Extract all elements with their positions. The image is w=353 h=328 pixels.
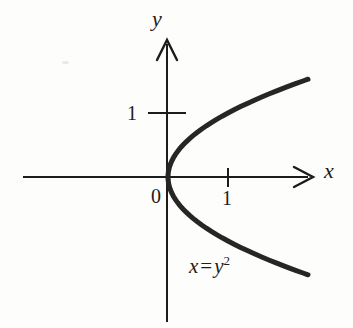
parabola-figure: y x 1 1 0 x=y2 [0,0,353,328]
x-axis-tick-label-1: 1 [222,188,232,208]
equation-equals-sign: = [198,254,214,278]
curve-equation-label: x=y2 [189,256,230,277]
equation-right-variable: y [214,254,223,278]
origin-label: 0 [151,186,161,206]
y-axis-label: y [152,8,162,30]
equation-exponent: 2 [224,253,231,268]
y-axis-tick-label-1: 1 [127,103,137,123]
equation-left-variable: x [189,254,198,278]
plot-canvas [0,0,353,328]
x-axis-label: x [324,160,334,182]
parabola-upper-branch [168,79,308,177]
